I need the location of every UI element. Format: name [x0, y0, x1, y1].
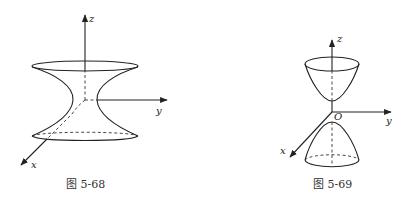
y-axis-label: y	[385, 115, 392, 126]
left-profile-curve	[32, 67, 73, 136]
x-axis-hidden	[47, 100, 85, 139]
bottom-rim-front	[32, 136, 138, 141]
diagram-canvas: z y x 图 5-68 z O y x	[0, 0, 412, 201]
figure-caption: 图 5-69	[313, 178, 352, 191]
y-axis-label: y	[155, 105, 162, 116]
right-profile-curve	[97, 67, 138, 136]
figure-caption: 图 5-68	[66, 178, 105, 191]
origin-label: O	[334, 111, 342, 122]
z-axis-label: z	[336, 33, 343, 44]
bottom-rim-back	[32, 132, 138, 136]
x-axis-label: x	[31, 159, 37, 170]
figure-5-68: z y x 图 5-68	[21, 13, 167, 191]
x-axis-label: x	[280, 145, 286, 156]
figure-5-69: z O y x 图 5-69	[280, 33, 392, 191]
z-axis-label: z	[88, 13, 95, 24]
x-axis	[290, 112, 332, 157]
